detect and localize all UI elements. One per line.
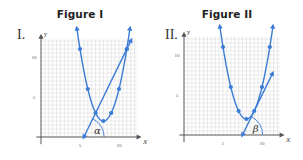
data-point xyxy=(117,87,121,91)
graph-figure-2: xy510510β xyxy=(151,0,302,160)
data-point xyxy=(268,45,272,49)
arrowhead-icon xyxy=(75,26,80,31)
x-axis-label: x xyxy=(142,136,147,146)
y-tick-label: 5 xyxy=(33,95,36,100)
angle-label: α xyxy=(94,125,101,136)
figure-1: Figure I I. xy510510α xyxy=(0,0,151,160)
figure-2: Figure II II. xy510510β xyxy=(151,0,302,160)
y-tick-label: 10 xyxy=(31,55,37,60)
data-point xyxy=(109,111,113,115)
y-axis-label: y xyxy=(44,30,48,38)
y-tick-label: 10 xyxy=(174,53,180,58)
y-axis-label: y xyxy=(187,28,191,36)
x-tick-label: 5 xyxy=(79,143,82,148)
data-point xyxy=(125,47,129,51)
arrowhead-icon xyxy=(137,134,142,139)
data-point xyxy=(86,87,90,91)
arrowhead-icon xyxy=(127,26,132,31)
data-point xyxy=(221,45,225,49)
angle-label: β xyxy=(252,123,259,134)
x-tick-label: 10 xyxy=(117,143,123,148)
data-point xyxy=(237,109,241,113)
data-point xyxy=(78,47,82,51)
arrowhead-icon xyxy=(218,24,223,29)
data-point xyxy=(244,117,248,121)
graph-figure-1: xy510510α xyxy=(0,0,151,160)
arrowhead-icon xyxy=(280,132,285,137)
arrowhead-icon xyxy=(270,24,275,29)
data-point xyxy=(260,85,264,89)
data-point xyxy=(101,119,105,123)
data-point xyxy=(229,85,233,89)
y-tick-label: 5 xyxy=(176,93,179,98)
x-axis-label: x xyxy=(285,134,290,144)
x-tick-label: 10 xyxy=(260,141,266,146)
x-tick-label: 5 xyxy=(222,141,225,146)
